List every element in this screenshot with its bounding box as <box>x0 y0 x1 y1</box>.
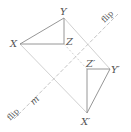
original-triangle <box>20 18 64 44</box>
image-triangle <box>87 69 110 113</box>
label-y: Y <box>60 6 68 17</box>
label-x: X <box>9 38 18 49</box>
label-flip-top: flip <box>100 9 116 25</box>
label-z: Z <box>65 36 74 47</box>
mirror-line-m <box>14 14 118 119</box>
reflection-diagram: X Y Z Z′ Y′ X′ m flip flip <box>0 0 131 132</box>
label-z-prime: Z′ <box>85 58 96 69</box>
label-x-prime: X′ <box>80 116 91 127</box>
label-y-prime: Y′ <box>111 64 121 75</box>
label-flip-bottom: flip <box>5 107 21 123</box>
label-m: m <box>28 94 41 107</box>
